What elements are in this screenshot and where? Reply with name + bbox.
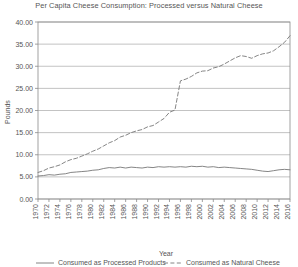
chart-legend: Consumed as Processed ProductsConsumed a…: [36, 259, 280, 266]
x-tick-label: 1974: [54, 204, 61, 220]
x-tick-label: 2002: [207, 204, 214, 220]
x-tick-label: 2000: [196, 204, 203, 220]
x-tick-label: 1978: [76, 204, 83, 220]
x-tick-label: 2004: [218, 204, 225, 220]
chart-canvas: 0.005.0010.0015.0020.0025.0030.0035.0040…: [0, 0, 298, 267]
series-line-1: [38, 36, 290, 173]
y-tick-label: 0.00: [19, 196, 33, 203]
y-tick-label: 40.00: [15, 19, 33, 26]
x-tick-label: 2016: [284, 204, 291, 220]
y-tick-label: 35.00: [15, 41, 33, 48]
x-axis-label: Year: [159, 250, 174, 257]
y-tick-label: 5.00: [19, 173, 33, 180]
y-axis-ticks: 0.005.0010.0015.0020.0025.0030.0035.0040…: [15, 19, 38, 203]
x-tick-label: 1990: [142, 204, 149, 220]
x-tick-label: 1988: [131, 204, 138, 220]
x-tick-label: 2012: [262, 204, 269, 220]
x-tick-label: 2006: [229, 204, 236, 220]
y-tick-label: 20.00: [15, 107, 33, 114]
x-tick-label: 2014: [273, 204, 280, 220]
y-axis-label: Pounds: [4, 100, 11, 124]
x-tick-label: 1980: [87, 204, 94, 220]
cheese-consumption-chart: Per Capita Cheese Consumption: Processed…: [0, 0, 298, 267]
x-tick-label: 2010: [251, 204, 258, 220]
x-tick-label: 1972: [43, 204, 50, 220]
x-axis-ticks: 1970197219741976197819801982198419861988…: [32, 199, 291, 220]
x-tick-label: 1982: [98, 204, 105, 220]
x-tick-label: 1998: [185, 204, 192, 220]
x-tick-label: 1984: [109, 204, 116, 220]
x-tick-label: 1994: [163, 204, 170, 220]
x-tick-label: 1986: [120, 204, 127, 220]
y-tick-label: 30.00: [15, 63, 33, 70]
x-tick-label: 1970: [32, 204, 39, 220]
legend-label-0: Consumed as Processed Products: [58, 259, 166, 266]
legend-label-1: Consumed as Natural Cheese: [186, 259, 280, 266]
y-tick-label: 10.00: [15, 151, 33, 158]
x-tick-label: 2008: [240, 204, 247, 220]
series-line-0: [38, 166, 290, 176]
y-tick-label: 25.00: [15, 85, 33, 92]
x-tick-label: 1996: [174, 204, 181, 220]
y-tick-label: 15.00: [15, 129, 33, 136]
x-tick-label: 1992: [153, 204, 160, 220]
x-tick-label: 1976: [65, 204, 72, 220]
